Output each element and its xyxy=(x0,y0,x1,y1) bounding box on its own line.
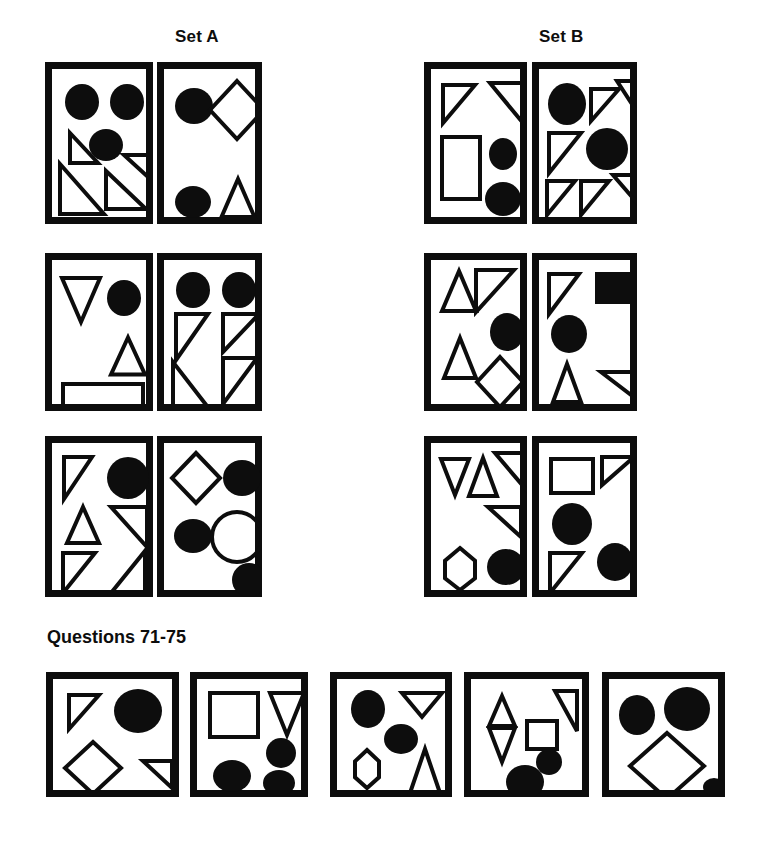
worksheet-sheet: Set A Set B Questions 71-75 xyxy=(0,0,766,842)
ellipse-solid-shape xyxy=(175,186,211,218)
panel-canvas xyxy=(532,253,637,411)
panel-canvas xyxy=(45,436,153,597)
shape-panel-question-73[interactable] xyxy=(330,672,452,797)
shape-panel-set-a-r3-c1[interactable] xyxy=(45,436,153,597)
ellipse-solid-shape xyxy=(263,770,295,796)
ellipse-solid-shape xyxy=(485,182,521,216)
shape-panel-question-71[interactable] xyxy=(46,672,179,797)
panel-canvas xyxy=(424,253,527,411)
ellipse-solid-shape xyxy=(552,503,592,545)
ellipse-solid-shape xyxy=(351,690,385,728)
rectangle-solid-shape xyxy=(595,272,637,304)
ellipse-solid-shape xyxy=(266,738,296,768)
ellipse-solid-shape xyxy=(703,778,725,796)
panel-canvas xyxy=(464,672,589,797)
shape-panel-set-a-r1-c2[interactable] xyxy=(157,62,262,224)
panel-canvas xyxy=(424,436,527,597)
panel-canvas xyxy=(424,62,527,224)
ellipse-solid-shape xyxy=(548,83,586,125)
ellipse-solid-shape xyxy=(223,460,261,496)
ellipse-solid-shape xyxy=(175,88,213,124)
set-a-heading: Set A xyxy=(175,27,219,47)
ellipse-solid-shape xyxy=(536,749,562,775)
ellipse-solid-shape xyxy=(174,519,212,553)
panel-canvas xyxy=(157,253,262,411)
ellipse-solid-shape xyxy=(487,549,525,585)
ellipse-solid-shape xyxy=(586,128,628,170)
panel-canvas xyxy=(46,672,179,797)
shape-panel-question-72[interactable] xyxy=(190,672,308,797)
shape-panel-question-74[interactable] xyxy=(464,672,589,797)
ellipse-solid-shape xyxy=(213,760,251,792)
ellipse-solid-shape xyxy=(384,724,418,754)
panel-canvas xyxy=(602,672,725,797)
ellipse-solid-shape xyxy=(110,84,144,120)
ellipse-solid-shape xyxy=(490,313,524,351)
ellipse-solid-shape xyxy=(114,689,162,733)
ellipse-solid-shape xyxy=(489,138,517,170)
shape-panel-set-a-r2-c1[interactable] xyxy=(45,253,153,411)
panel-canvas xyxy=(157,436,262,597)
panel-canvas xyxy=(157,62,262,224)
shape-panel-set-b-r2-c2[interactable] xyxy=(532,253,637,411)
panel-canvas xyxy=(45,253,153,411)
ellipse-solid-shape xyxy=(222,272,256,308)
ellipse-solid-shape xyxy=(65,84,99,120)
ellipse-solid-shape xyxy=(597,543,633,581)
panel-canvas xyxy=(532,436,637,597)
shape-panel-set-b-r1-c1[interactable] xyxy=(424,62,527,224)
shape-panel-set-b-r3-c1[interactable] xyxy=(424,436,527,597)
ellipse-solid-shape xyxy=(619,695,655,735)
panel-canvas xyxy=(532,62,637,224)
ellipse-solid-shape xyxy=(551,315,587,353)
shape-panel-set-a-r2-c2[interactable] xyxy=(157,253,262,411)
shape-panel-question-75[interactable] xyxy=(602,672,725,797)
panel-canvas xyxy=(190,672,308,797)
shape-panel-set-b-r3-c2[interactable] xyxy=(532,436,637,597)
ellipse-solid-shape xyxy=(107,280,141,316)
shape-panel-set-a-r3-c2[interactable] xyxy=(157,436,262,597)
shape-panel-set-b-r1-c2[interactable] xyxy=(532,62,637,224)
questions-heading: Questions 71-75 xyxy=(47,627,186,648)
panel-canvas xyxy=(330,672,452,797)
shape-panel-set-b-r2-c1[interactable] xyxy=(424,253,527,411)
set-b-heading: Set B xyxy=(539,27,583,47)
ellipse-solid-shape xyxy=(107,457,149,499)
ellipse-solid-shape xyxy=(664,687,710,731)
shape-panel-set-a-r1-c1[interactable] xyxy=(45,62,153,224)
panel-canvas xyxy=(45,62,153,224)
ellipse-solid-shape xyxy=(176,272,210,308)
